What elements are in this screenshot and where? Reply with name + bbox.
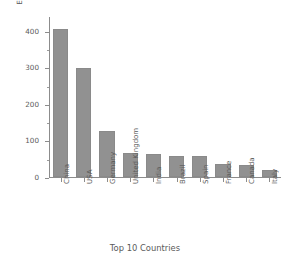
category-label: China (64, 164, 71, 184)
category-label: India (156, 167, 163, 184)
y-axis-line (49, 17, 50, 178)
x-tick (200, 178, 201, 182)
y-tick-label: 0 (34, 174, 39, 181)
x-axis-title: Top 10 Countries (0, 243, 290, 253)
x-tick (61, 178, 62, 182)
x-tick (177, 178, 178, 182)
category-label: Spain (203, 164, 210, 184)
x-tick (84, 178, 85, 182)
y-tick-label: 100 (25, 138, 39, 145)
x-tick (223, 178, 224, 182)
bar (76, 68, 91, 177)
y-tick-300: 300 (45, 68, 49, 69)
y-tick-200: 200 (45, 105, 49, 106)
category-label: Brazil (180, 164, 187, 184)
x-tick (107, 178, 108, 182)
y-tick-minor (47, 50, 49, 51)
y-tick-label: 300 (25, 65, 39, 72)
plot-area: 0100200300400 (49, 17, 281, 178)
y-tick-minor (47, 87, 49, 88)
y-tick-400: 400 (45, 32, 49, 33)
x-axis-category-labels: ChinaUSAGermanyUnited KingdomIndiaBrazil… (49, 184, 281, 234)
y-tick-0: 0 (45, 178, 49, 179)
y-tick-label: 400 (25, 28, 39, 35)
category-label: USA (87, 170, 94, 185)
y-tick-100: 100 (45, 141, 49, 142)
bar-chart: Entectricity generation (TWh) 0100200300… (0, 0, 290, 271)
category-label: Italy (272, 169, 279, 184)
y-axis-title: Entectricity generation (TWh) (14, 0, 26, 30)
y-tick-minor (47, 123, 49, 124)
category-label: United Kingdom (133, 128, 140, 184)
category-label: Germany (110, 152, 117, 184)
category-label: Canada (249, 157, 256, 184)
category-label: France (226, 161, 233, 184)
bar (53, 29, 68, 177)
y-tick-label: 200 (25, 101, 39, 108)
y-tick-minor (47, 160, 49, 161)
